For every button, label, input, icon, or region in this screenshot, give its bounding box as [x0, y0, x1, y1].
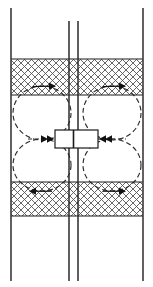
- figure-canvas: [0, 0, 153, 287]
- perforation-box: [55, 130, 98, 148]
- arrow-inflow-right: [99, 135, 112, 143]
- upper-seal-layer: [11, 59, 143, 95]
- arrow-inflow-left: [41, 135, 54, 143]
- perforation-interval: [55, 130, 98, 148]
- wellbore-convection-diagram: [0, 0, 153, 287]
- lower-seal-layer: [11, 182, 143, 216]
